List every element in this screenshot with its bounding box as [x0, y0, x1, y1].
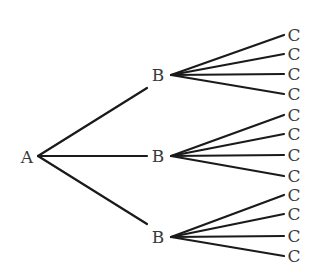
node-b-2: B — [152, 146, 165, 166]
node-c-3-4: C — [287, 246, 300, 266]
node-c-1-4: C — [287, 84, 300, 104]
node-c-1-2: C — [287, 44, 300, 64]
node-c-1-1: C — [287, 25, 300, 45]
edge-b1-c-2 — [171, 54, 284, 75]
node-c-2-2: C — [287, 124, 300, 144]
edge-b3-c-3 — [171, 236, 284, 237]
edge-b2-c-3 — [171, 155, 284, 156]
edge-b1-c-1 — [171, 35, 284, 75]
edge-b1-c-3 — [171, 74, 284, 75]
edge-b3-c-1 — [171, 195, 284, 237]
edge-b2-c-4 — [171, 156, 284, 176]
edge-a-b-1 — [38, 88, 147, 156]
node-c-3-1: C — [287, 185, 300, 205]
node-c-2-4: C — [287, 166, 300, 186]
edge-a-b-3 — [38, 156, 147, 224]
node-c-2-3: C — [287, 145, 300, 165]
edge-b3-c-2 — [171, 214, 284, 237]
node-a: A — [20, 147, 34, 167]
node-b-3: B — [152, 227, 165, 247]
tree-labels: A B B B C C C C C C C C C C C C — [20, 25, 301, 266]
edge-b2-c-1 — [171, 115, 284, 156]
node-c-3-3: C — [287, 226, 300, 246]
edge-b2-c-2 — [171, 134, 284, 156]
node-b-1: B — [152, 65, 165, 85]
node-c-1-3: C — [287, 64, 300, 84]
edge-b1-c-4 — [171, 75, 284, 94]
node-c-3-2: C — [287, 204, 300, 224]
tree-diagram: A B B B C C C C C C C C C C C C — [0, 0, 319, 277]
node-c-2-1: C — [287, 105, 300, 125]
edge-b3-c-4 — [171, 237, 284, 256]
